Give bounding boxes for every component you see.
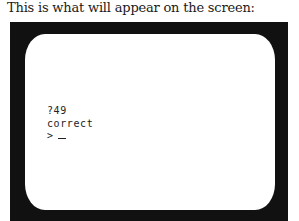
terminal-line-result: correct (47, 118, 93, 131)
terminal-line-input: ?49 (47, 105, 93, 118)
prompt-symbol: > (47, 130, 54, 141)
terminal-prompt-line[interactable]: > (47, 130, 93, 143)
terminal-output: ?49 correct > (47, 105, 93, 143)
monitor-screen: ?49 correct > (25, 34, 275, 210)
monitor-frame: ?49 correct > (10, 22, 288, 221)
caption: This is what will appear on the screen: (7, 0, 255, 15)
cursor-icon (58, 138, 66, 139)
